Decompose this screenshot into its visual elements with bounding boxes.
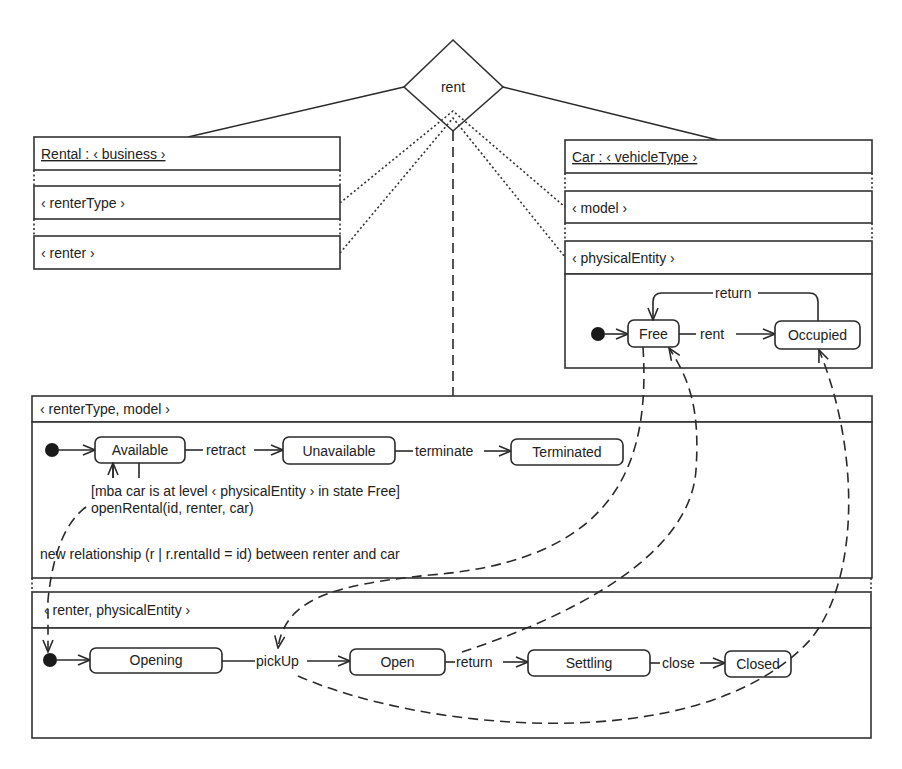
association-line-car (503, 87, 718, 140)
svg-text:Settling: Settling (566, 655, 613, 671)
transition-rent: rent (700, 326, 724, 342)
transition-pickUp: pickUp (256, 653, 299, 669)
svg-text:Open: Open (380, 654, 414, 670)
car-title: Car : ‹ vehicleType › (572, 149, 698, 165)
state-free[interactable]: Free (628, 320, 679, 347)
transition-effect: new relationship (r | r.rentalId = id) b… (40, 546, 400, 562)
transition-return: return (456, 654, 493, 670)
state-occupied[interactable]: Occupied (775, 321, 860, 349)
svg-text:Opening: Opening (130, 652, 183, 668)
state-available[interactable]: Available (95, 437, 185, 463)
relationship-label: rent (441, 79, 465, 95)
state-opening[interactable]: Opening (90, 648, 222, 673)
car-level-label: ‹ physicalEntity › (572, 250, 675, 266)
transition-terminate: terminate (415, 443, 474, 459)
transition-action: openRental(id, renter, car) (91, 500, 254, 516)
state-settling[interactable]: Settling (528, 650, 650, 676)
svg-text:Free: Free (639, 326, 668, 342)
association-line-rental (188, 87, 404, 137)
initial-state-icon (591, 327, 605, 341)
car-level-label: ‹ model › (572, 200, 628, 216)
car-object[interactable]: Car : ‹ vehicleType › ‹ model › ‹ physic… (565, 140, 872, 368)
initial-state-icon (43, 653, 57, 667)
level-header-label: ‹ renterType, model › (40, 401, 170, 417)
state-open[interactable]: Open (350, 649, 445, 675)
transition-retract: retract (206, 442, 246, 458)
svg-text:Unavailable: Unavailable (302, 443, 375, 459)
state-closed[interactable]: Closed (725, 651, 791, 677)
rental-title: Rental : ‹ business › (41, 146, 166, 162)
transition-return: return (715, 285, 752, 301)
svg-text:Terminated: Terminated (532, 444, 601, 460)
svg-text:Closed: Closed (736, 656, 780, 672)
svg-text:Available: Available (112, 442, 169, 458)
diagram-canvas: rent Rental : ‹ business › ‹ renterType … (0, 0, 902, 769)
rental-object[interactable]: Rental : ‹ business › ‹ renterType › ‹ r… (34, 137, 340, 269)
rental-level-label: ‹ renterType › (41, 195, 125, 211)
level-header-label: ‹ renter, physicalEntity › (44, 602, 191, 618)
initial-state-icon (45, 443, 59, 457)
transition-guard: [mba car is at level ‹ physicalEntity › … (91, 483, 400, 499)
svg-text:Occupied: Occupied (788, 327, 847, 343)
state-terminated[interactable]: Terminated (511, 439, 623, 465)
state-unavailable[interactable]: Unavailable (283, 437, 395, 464)
rental-level-label: ‹ renter › (41, 245, 95, 261)
transition-close: close (662, 655, 695, 671)
